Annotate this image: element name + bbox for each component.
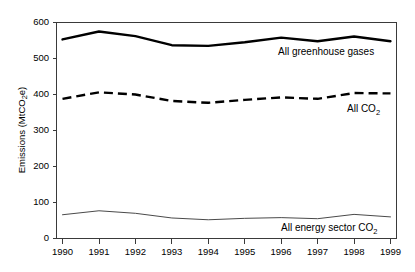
y-axis-title-base: Emissions (MtCO bbox=[16, 99, 27, 173]
x-tick-label-1998: 1998 bbox=[343, 246, 364, 257]
series-label-all-greenhouse-gases: All greenhouse gases bbox=[278, 46, 374, 57]
y-tick-label-600: 600 bbox=[33, 16, 49, 27]
series-line-all-co2 bbox=[63, 92, 391, 102]
x-tick-label-1990: 1990 bbox=[52, 246, 73, 257]
x-tick-label-1992: 1992 bbox=[125, 246, 146, 257]
y-tick-label-200: 200 bbox=[33, 160, 49, 171]
series-label-all-co2: All CO2 bbox=[347, 103, 380, 117]
series-label-ghg-base: All greenhouse gases bbox=[278, 46, 374, 57]
chart-container: 0 100 200 300 400 500 600 Emissions (MtC… bbox=[0, 0, 415, 272]
x-tick-label-1996: 1996 bbox=[271, 246, 292, 257]
series-label-co2-subscript: 2 bbox=[376, 108, 380, 117]
svg-text:Emissions (MtCO2e): Emissions (MtCO2e) bbox=[16, 87, 29, 174]
x-tick-label-1997: 1997 bbox=[307, 246, 328, 257]
y-tick-label-100: 100 bbox=[33, 196, 49, 207]
y-tick-label-400: 400 bbox=[33, 88, 49, 99]
series-line-all-energy-sector-co2 bbox=[63, 211, 391, 220]
x-tick-label-1991: 1991 bbox=[88, 246, 109, 257]
series-label-energy-subscript: 2 bbox=[373, 227, 377, 236]
series-label-energy-base: All energy sector CO bbox=[281, 222, 373, 233]
x-tick-label-1994: 1994 bbox=[198, 246, 219, 257]
y-tick-label-300: 300 bbox=[33, 124, 49, 135]
x-axis-ticks: 1990 1991 1992 1993 1994 1995 1996 1997 … bbox=[52, 239, 401, 258]
y-axis-title-tail: e) bbox=[16, 87, 27, 95]
series-label-co2-base: All CO bbox=[347, 103, 376, 114]
y-tick-label-0: 0 bbox=[44, 232, 49, 243]
y-axis-ticks: 0 100 200 300 400 500 600 bbox=[33, 16, 56, 243]
y-axis-title: Emissions (MtCO2e) bbox=[16, 87, 29, 174]
x-tick-label-1993: 1993 bbox=[161, 246, 182, 257]
series-line-all-greenhouse-gases bbox=[63, 32, 391, 46]
x-tick-label-1999: 1999 bbox=[380, 246, 401, 257]
x-tick-label-1995: 1995 bbox=[234, 246, 255, 257]
y-tick-label-500: 500 bbox=[33, 52, 49, 63]
series-label-all-energy-sector-co2: All energy sector CO2 bbox=[281, 222, 377, 236]
emissions-line-chart: 0 100 200 300 400 500 600 Emissions (MtC… bbox=[0, 0, 415, 272]
